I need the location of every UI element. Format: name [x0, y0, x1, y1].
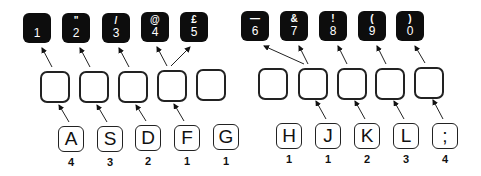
keyboard-finger-diagram: 1 " 2 / 3 @ 4 £ 5 — 6 & 7 ! 8 ( 9 ) 0: [0, 0, 481, 176]
reach-arrows: [0, 0, 481, 176]
